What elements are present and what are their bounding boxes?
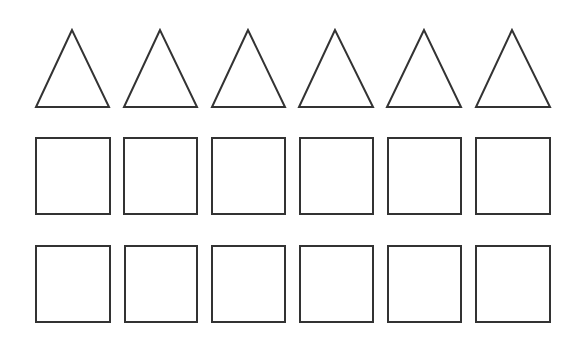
triangle-icon <box>476 30 550 107</box>
triangle-icon <box>36 30 109 107</box>
square-icon <box>125 246 197 322</box>
square-icon <box>388 138 461 214</box>
triangle-icon <box>212 30 285 107</box>
square-icon <box>124 138 197 214</box>
square-icon <box>476 138 550 214</box>
triangle-row <box>36 30 550 107</box>
shapes-canvas <box>0 0 582 342</box>
square-row-2 <box>36 246 550 322</box>
triangle-icon <box>299 30 373 107</box>
square-icon <box>388 246 461 322</box>
square-icon <box>300 138 373 214</box>
triangle-icon <box>124 30 197 107</box>
square-icon <box>212 138 285 214</box>
square-icon <box>36 138 110 214</box>
triangle-icon <box>387 30 461 107</box>
square-icon <box>36 246 110 322</box>
square-icon <box>300 246 373 322</box>
square-row-1 <box>36 138 550 214</box>
square-icon <box>476 246 550 322</box>
square-icon <box>212 246 285 322</box>
